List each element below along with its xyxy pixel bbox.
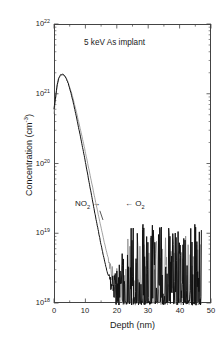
no2-label-sub: 2 <box>87 204 90 210</box>
y-tick-mantissa: 10 <box>36 228 44 237</box>
y-tick-exponent: 18 <box>44 297 50 303</box>
y-axis-title: Concentration (cm-3) <box>24 70 34 240</box>
y-tick-mantissa: 10 <box>36 298 44 307</box>
y-tick-label: 1018 <box>10 299 50 306</box>
y-tick-mantissa: 10 <box>36 89 44 98</box>
x-tick-label: 40 <box>167 307 193 315</box>
y-tick-mantissa: 10 <box>36 19 44 28</box>
no2-label-text: NO <box>75 199 87 208</box>
figure-canvas: 1022 1021 1020 1019 1018 0 10 20 30 40 5… <box>0 0 223 354</box>
o2-curve-annotation: ← O2 <box>125 199 145 208</box>
no2-curve-annotation: NO2 → <box>75 199 100 208</box>
y-tick-mantissa: 10 <box>36 159 44 168</box>
arrow-right-icon: → <box>92 199 100 208</box>
y-tick-exponent: 20 <box>44 158 50 164</box>
arrow-left-icon: ← <box>125 199 133 208</box>
o2-label-sub: 2 <box>141 204 144 210</box>
chart-title-annotation: 5 keV As implant <box>84 38 145 47</box>
y-axis-title-exponent: -3 <box>22 117 29 123</box>
y-axis-title-text: Concentration (cm <box>24 123 34 197</box>
y-tick-exponent: 22 <box>44 18 50 24</box>
y-tick-label: 1022 <box>10 20 50 27</box>
y-axis-title-paren: ) <box>24 114 34 117</box>
x-tick-label: 30 <box>135 307 161 315</box>
y-tick-exponent: 21 <box>44 88 50 94</box>
y-tick-exponent: 19 <box>44 227 50 233</box>
x-tick-label: 0 <box>41 307 67 315</box>
x-tick-label: 10 <box>72 307 98 315</box>
x-tick-label: 20 <box>104 307 130 315</box>
x-tick-label: 50 <box>198 307 223 315</box>
x-axis-title: Depth (nm) <box>54 320 211 330</box>
